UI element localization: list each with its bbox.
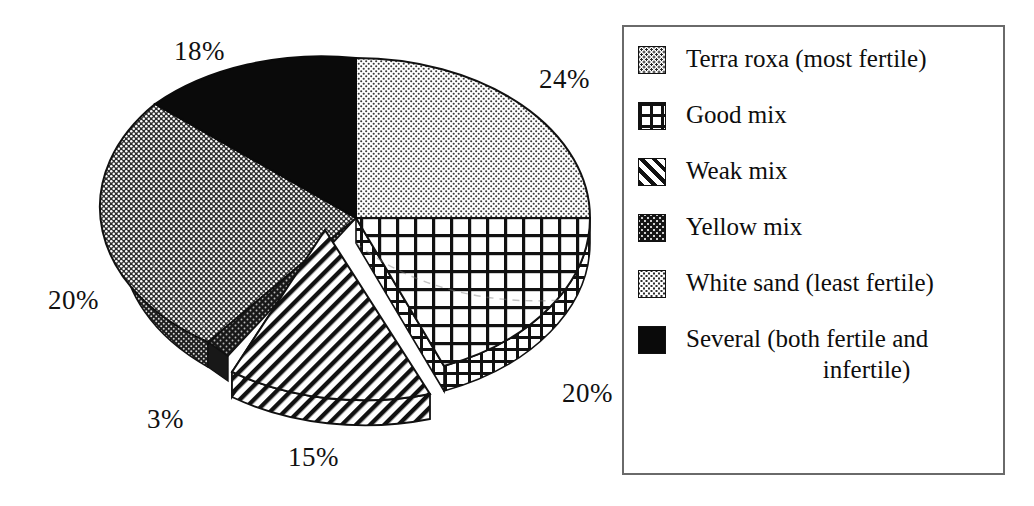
legend-swatch-grid-icon (638, 102, 666, 130)
legend-swatch-gray-dots-icon (638, 270, 666, 298)
legend-label-white-sand: White sand (least fertile) (686, 267, 934, 298)
legend-label-weak-mix: Weak mix (686, 155, 787, 186)
legend-item-weak-mix: Weak mix (638, 155, 989, 189)
legend-label-yellow-mix: Yellow mix (686, 211, 802, 242)
legend-list: Terra roxa (most fertile) Good mix Weak … (624, 27, 1003, 473)
legend-label-good-mix: Good mix (686, 99, 787, 130)
legend-label-terra-roxa: Terra roxa (most fertile) (686, 43, 927, 74)
pct-label-white-sand: 20% (48, 287, 99, 314)
legend-label-several: Several (both fertile andinfertile) (686, 323, 928, 385)
legend-box: Terra roxa (most fertile) Good mix Weak … (622, 25, 1005, 475)
legend-item-yellow-mix: Yellow mix (638, 211, 989, 245)
legend-swatch-solid-black-icon (638, 326, 666, 354)
legend-item-white-sand: White sand (least fertile) (638, 267, 989, 301)
pct-label-weak-mix: 15% (288, 444, 339, 471)
legend-swatch-light-dots-icon (638, 46, 666, 74)
pct-label-terra-roxa: 24% (539, 66, 590, 93)
pie-chart-graphic: 18% 24% 20% 3% 15% 20% (0, 0, 620, 506)
pct-label-yellow-mix: 3% (147, 406, 184, 433)
legend-swatch-dark-dots-icon (638, 214, 666, 242)
pie-svg (0, 0, 620, 506)
legend-item-good-mix: Good mix (638, 99, 989, 133)
legend-item-terra-roxa: Terra roxa (most fertile) (638, 43, 989, 77)
pct-label-good-mix: 20% (562, 380, 613, 407)
pct-label-several: 18% (174, 38, 225, 65)
pie-chart-figure: 18% 24% 20% 3% 15% 20% Terra roxa (most … (0, 0, 1034, 506)
legend-swatch-diagonal-icon (638, 158, 666, 186)
legend-item-several: Several (both fertile andinfertile) (638, 323, 989, 385)
legend-label-several-line2: infertile) (686, 354, 928, 385)
legend-label-several-line1: Several (both fertile and (686, 325, 928, 352)
